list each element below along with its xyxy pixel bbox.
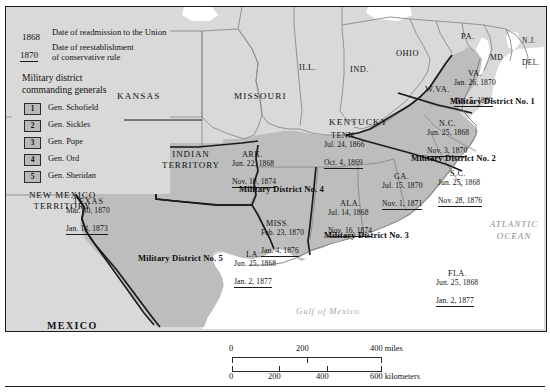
date-arkansas-readmission: Jun. 22, 1868	[232, 160, 274, 169]
date-texas-conservative: Jan. 14, 1873	[66, 225, 108, 235]
label-indian-territory-line1: INDIAN	[161, 149, 221, 159]
date-georgia-readmission: Jul. 15, 1870	[382, 182, 423, 191]
map-frame: 1868 Date of readmission to the Union 18…	[5, 6, 547, 332]
label-missouri: MISSOURI	[234, 91, 287, 101]
label-kansas: KANSAS	[117, 91, 160, 101]
label-arkansas: ARK.	[242, 150, 263, 159]
date-north-carolina-readmission: Jun. 25, 1868	[427, 129, 469, 138]
scale-km-line	[232, 371, 382, 372]
label-illinois: ILL.	[299, 63, 316, 72]
label-kentucky: KENTUCKY	[329, 117, 388, 127]
scale-km-label-0: 0	[229, 372, 233, 381]
date-south-carolina-conservative: Nov. 28, 1876	[438, 197, 482, 207]
date-alabama-readmission: Jul. 14, 1868	[328, 209, 369, 218]
label-south-carolina: S.C.	[450, 169, 466, 178]
bottom-rule	[5, 386, 545, 387]
date-texas-readmission: Mar. 30, 1870	[66, 207, 110, 216]
label-georgia: GA.	[394, 172, 409, 181]
label-gulf-of-mexico: Gulf of Mexico	[296, 306, 360, 316]
label-military-district-3: Military District No. 3	[324, 231, 409, 241]
date-virginia-readmission: Jan. 26, 1870	[454, 79, 496, 88]
scale-km-label-400: 400	[316, 372, 329, 381]
label-indiana: IND.	[350, 65, 369, 74]
label-mississippi: MISS.	[266, 219, 289, 228]
date-mississippi-conservative: Jan. 4, 1876	[261, 247, 299, 257]
label-indian-territory-line2: TERRITORY	[156, 160, 226, 170]
label-delaware: DEL.	[522, 59, 540, 67]
reconstruction-map: 1868 Date of readmission to the Union 18…	[0, 0, 550, 392]
label-virginia: VA.	[468, 69, 482, 78]
scale-miles-label-200: 200	[296, 344, 309, 353]
label-ohio: OHIO	[396, 49, 419, 58]
scale-miles-tick-200	[307, 357, 308, 363]
scale-km-label-200: 200	[268, 372, 281, 381]
label-new-jersey: N.J.	[522, 37, 536, 45]
date-tennessee-readmission: Jul. 24, 1866	[324, 141, 365, 150]
label-north-carolina: N.C.	[439, 119, 456, 128]
scale-km-label-600: 600 kilometers	[370, 372, 420, 381]
label-atlantic-line2: OCEAN	[483, 231, 545, 242]
scale-miles-label-400: 400 miles	[370, 344, 403, 353]
scale-miles-tick-0	[232, 357, 233, 363]
date-florida-conservative: Jan. 2, 1877	[436, 297, 474, 307]
label-maryland: MD	[490, 54, 503, 63]
scale-bar: 0 200 400 miles 0 200 400 600 kilometers	[226, 345, 476, 385]
label-alabama: ALA.	[340, 199, 360, 208]
label-military-district-2: Military District No. 2	[411, 154, 496, 164]
date-louisiana-readmission: Jun. 25, 1868	[234, 260, 276, 269]
label-west-virginia: W.VA.	[425, 85, 450, 94]
date-south-carolina-readmission: Jun. 25, 1868	[438, 179, 480, 188]
label-atlantic-line1: ATLANTIC	[483, 219, 545, 230]
label-military-district-1: Military District No. 1	[450, 97, 535, 107]
label-texas: TEXAS	[73, 197, 104, 206]
label-tennessee: TENN.	[331, 131, 357, 140]
date-georgia-conservative: Nov. 1, 1871	[382, 200, 422, 210]
label-florida: FLA.	[448, 269, 467, 278]
label-pennsylvania: PA.	[461, 32, 475, 41]
date-louisiana-conservative: Jan. 2, 1877	[234, 278, 272, 288]
label-military-district-4: Military District No. 4	[239, 185, 324, 195]
date-mississippi-readmission: Feb. 23, 1870	[261, 229, 304, 238]
date-florida-readmission: Jun. 25, 1868	[436, 279, 478, 288]
date-tennessee-conservative: Oct. 4, 1869	[324, 159, 363, 169]
scale-miles-tick-400	[381, 357, 382, 363]
label-mexico: MEXICO	[47, 320, 98, 331]
label-military-district-5: Military District No. 5	[138, 254, 223, 264]
scale-miles-label-0: 0	[229, 344, 233, 353]
label-louisiana: LA.	[246, 250, 260, 259]
